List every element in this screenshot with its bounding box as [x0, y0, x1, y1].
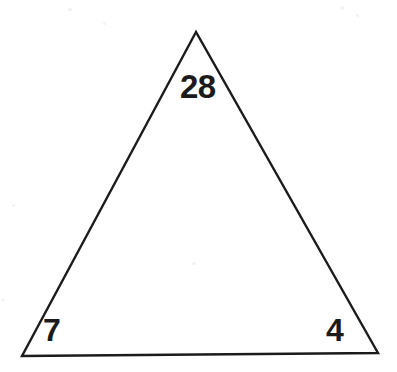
angle-label-bottom-right: 4: [326, 314, 343, 346]
angle-label-apex: 28: [180, 70, 216, 103]
angle-label-bottom-left: 7: [43, 314, 60, 346]
diagram-canvas: 28 7 4: [0, 0, 397, 372]
